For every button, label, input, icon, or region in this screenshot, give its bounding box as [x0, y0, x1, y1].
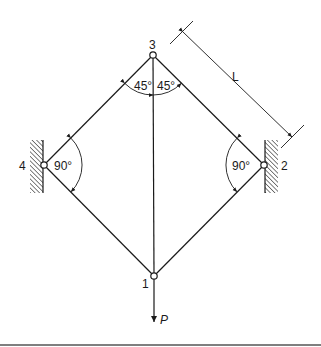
- load-label-P: P: [160, 313, 168, 327]
- node-3: [150, 52, 156, 58]
- angle-label-left: 90°: [54, 159, 72, 173]
- member-3-1: [153, 55, 154, 276]
- node-label-2: 2: [281, 159, 288, 173]
- dimension-label-L: L: [232, 70, 239, 84]
- angle-label-top-left: 45°: [134, 79, 152, 93]
- node-label-1: 1: [142, 277, 149, 291]
- node-2: [261, 162, 267, 168]
- truss-diagram: 3 4 2 1 45° 45° 90° 90° L P: [0, 0, 321, 347]
- member-4-1: [44, 165, 154, 276]
- node-1: [151, 273, 157, 279]
- member-3-2: [153, 55, 264, 165]
- member-2-1: [154, 165, 264, 276]
- node-label-3: 3: [149, 38, 156, 52]
- angle-arc-left: [71, 138, 82, 192]
- dimension-L: [170, 21, 304, 148]
- truss-members: [44, 55, 264, 276]
- angle-label-right: 90°: [232, 159, 250, 173]
- angle-label-top-right: 45°: [157, 79, 175, 93]
- node-label-4: 4: [19, 159, 26, 173]
- member-3-4: [44, 55, 153, 165]
- node-4: [41, 162, 47, 168]
